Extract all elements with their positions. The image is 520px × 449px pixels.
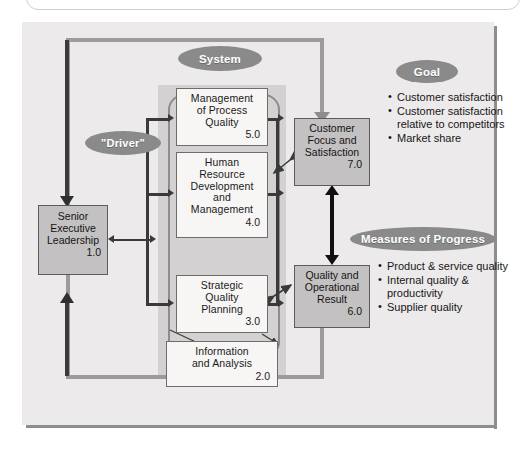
box-customer-focus-and-satisfaction[interactable]: Customer Focus and Satisfaction 7.0 — [294, 118, 370, 186]
box-line: Satisfaction — [301, 147, 363, 159]
label-system: System — [178, 46, 262, 71]
box-management-of-process-quality[interactable]: Management of Process Quality 5.0 — [176, 88, 268, 146]
box-number: 5.0 — [183, 128, 261, 140]
box-number: 3.0 — [183, 315, 261, 327]
box-line: Leadership — [44, 235, 102, 247]
box-line: Executive — [44, 223, 102, 235]
box-line: Quality — [183, 117, 261, 129]
results-linkage-arrowhead-down — [325, 255, 339, 265]
box-number: 2.0 — [173, 370, 271, 382]
arrowhead-to-system — [150, 235, 156, 243]
list-item: Internal quality & productivity — [378, 274, 510, 301]
box-line: Operational — [301, 282, 363, 294]
measures-bullet-list: Product & service quality Internal quali… — [378, 260, 510, 314]
box-line: and Analysis — [173, 358, 271, 370]
box-number: 1.0 — [44, 246, 102, 258]
box-number: 4.0 — [183, 216, 261, 228]
list-item: Customer satisfaction — [388, 91, 506, 105]
label-driver: "Driver" — [85, 131, 161, 155]
label-measures-of-progress: Measures of Progress — [350, 227, 496, 251]
arrowhead-to-leadership — [108, 235, 114, 243]
box-quality-and-operational-result[interactable]: Quality and Operational Result 6.0 — [294, 265, 370, 328]
box-line: Management — [183, 204, 261, 216]
box-line: Focus and — [301, 135, 363, 147]
box-line: Planning — [183, 304, 261, 316]
list-item: Customer satisfaction relative to compet… — [388, 105, 506, 132]
list-item: Product & service quality — [378, 260, 510, 274]
box-line: Quality — [183, 292, 261, 304]
list-item: Market share — [388, 132, 506, 146]
box-information-and-analysis[interactable]: Information and Analysis 2.0 — [166, 341, 278, 387]
goal-bullet-list: Customer satisfaction Customer satisfact… — [388, 91, 506, 145]
box-line: Result — [301, 294, 363, 306]
list-item: Supplier quality — [378, 301, 510, 315]
box-number: 7.0 — [301, 158, 363, 170]
label-goal: Goal — [396, 60, 458, 83]
box-line: of Process — [183, 105, 261, 117]
leadership-system-connector — [114, 239, 152, 241]
results-linkage-arrowhead-up — [325, 185, 339, 195]
box-line: Resource — [183, 169, 261, 181]
box-number: 6.0 — [301, 305, 363, 317]
box-human-resource-development-and-management[interactable]: Human Resource Development and Managemen… — [176, 152, 268, 238]
box-strategic-quality-planning[interactable]: Strategic Quality Planning 3.0 — [176, 275, 268, 333]
results-linkage-shaft — [330, 193, 334, 259]
box-senior-executive-leadership[interactable]: Senior Executive Leadership 1.0 — [38, 205, 108, 275]
